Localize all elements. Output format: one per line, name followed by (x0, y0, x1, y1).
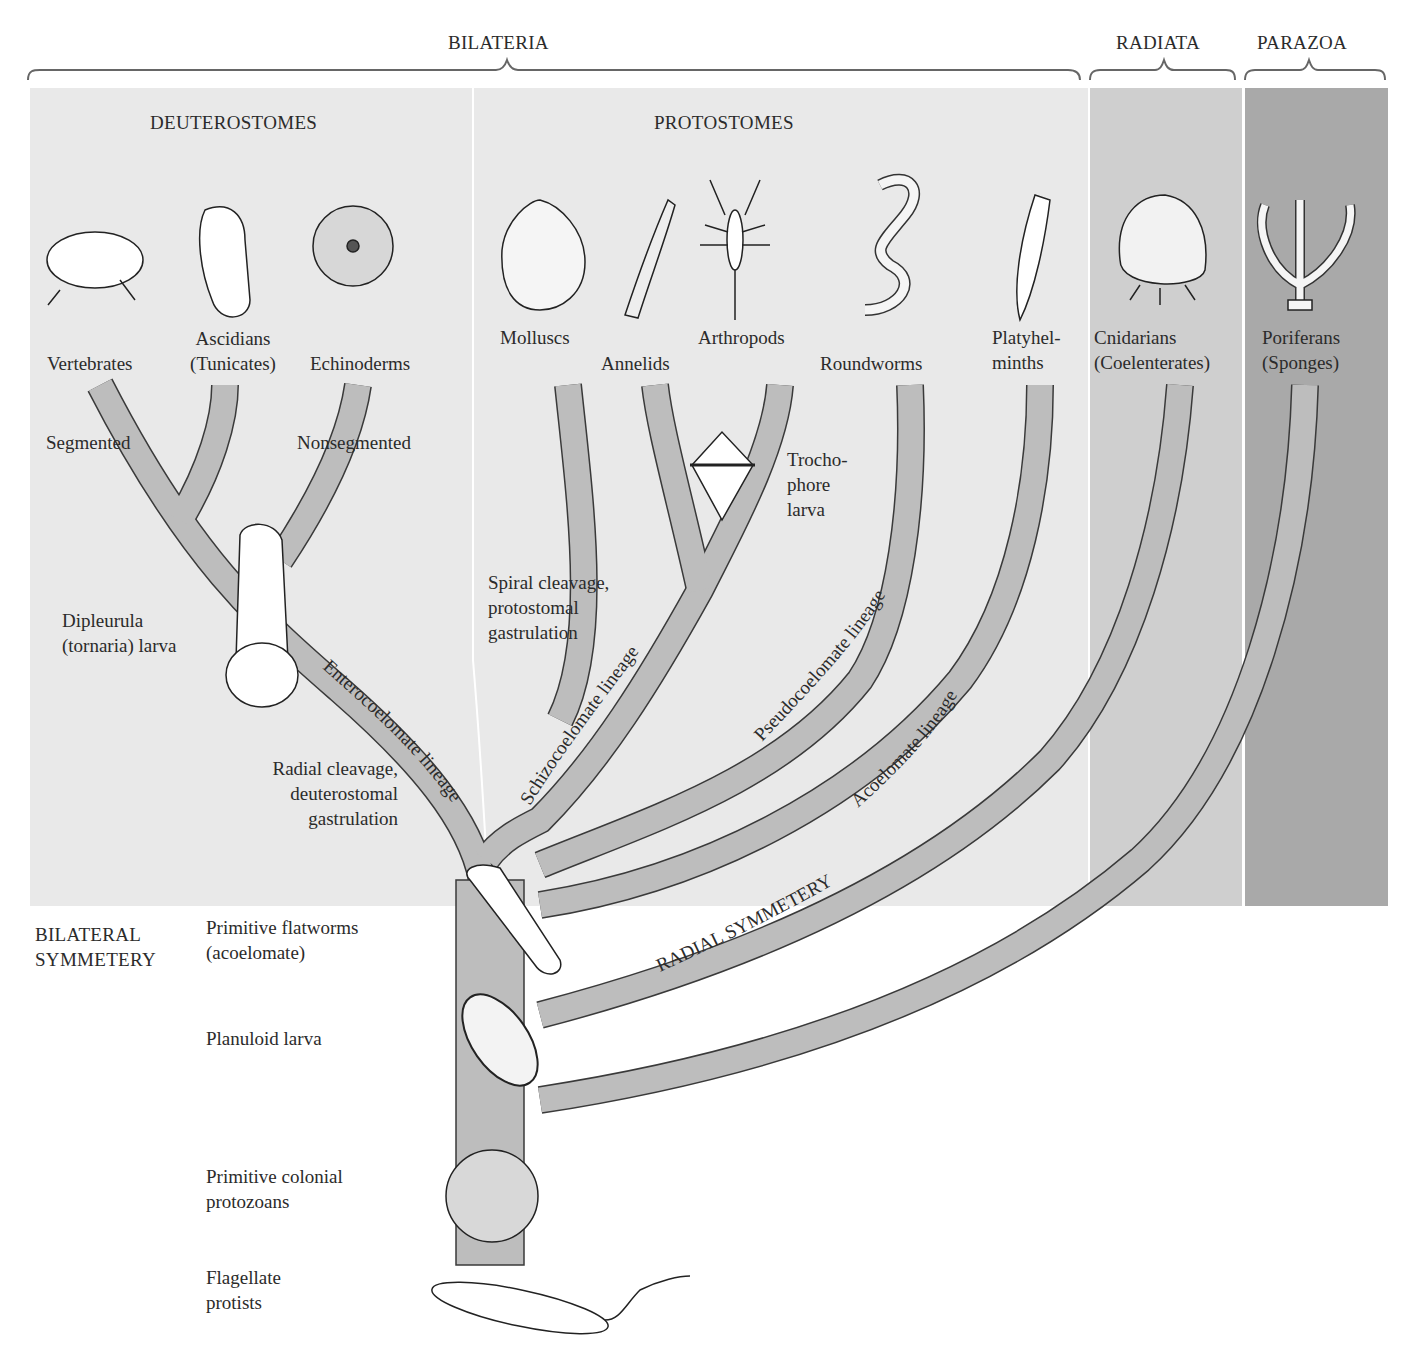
taxon-echinoderms: Echinoderms (310, 351, 410, 376)
taxon-arthropods: Arthropods (698, 325, 785, 350)
protostomes-heading: PROTOSTOMES (654, 110, 794, 135)
taxon-cnidarians: Cnidarians (Coelenterates) (1094, 325, 1210, 375)
bilateria-brace (28, 60, 1080, 80)
phylogeny-diagram: Enterocoelomate lineage Schizocoelomate … (0, 0, 1410, 1353)
taxon-roundworms: Roundworms (820, 351, 922, 376)
planuloid-larva-label: Planuloid larva (206, 1026, 322, 1051)
radiata-heading: RADIATA (1116, 30, 1200, 55)
parazoa-heading: PARAZOA (1257, 30, 1347, 55)
spiral-cleavage-label: Spiral cleavage, protostomal gastrulatio… (488, 570, 609, 645)
radial-cleavage-label: Radial cleavage, deuterostomal gastrulat… (236, 756, 398, 831)
taxon-molluscs: Molluscs (500, 325, 570, 350)
segmented-label: Segmented (46, 430, 130, 455)
bilateral-symmetry-label: BILATERAL SYMMETERY (35, 922, 156, 972)
trochophore-larva-label: Trocho- phore larva (787, 447, 848, 522)
taxon-annelids: Annelids (601, 351, 670, 376)
taxon-ascidians: Ascidians (Tunicates) (180, 326, 286, 376)
colonial-protozoan-illustration (446, 1150, 538, 1242)
parazoa-brace (1245, 60, 1385, 80)
primitive-flatworms-label: Primitive flatworms (acoelomate) (206, 915, 359, 965)
taxon-poriferans: Poriferans (Sponges) (1262, 325, 1340, 375)
nonsegmented-label: Nonsegmented (297, 430, 411, 455)
bilateria-heading: BILATERIA (448, 30, 549, 55)
dipleurula-larva-label: Dipleurula (tornaria) larva (62, 608, 176, 658)
sea-urchin-illustration (313, 206, 393, 286)
deuterostomes-heading: DEUTEROSTOMES (150, 110, 317, 135)
flagellate-illustration (428, 1272, 690, 1345)
radiata-brace (1090, 60, 1235, 80)
taxon-vertebrates: Vertebrates (47, 351, 132, 376)
primitive-colonial-protozoans-label: Primitive colonial protozoans (206, 1164, 343, 1214)
taxon-platyhelminths: Platyhel- minths (992, 325, 1061, 375)
flagellate-protists-label: Flagellate protists (206, 1265, 281, 1315)
